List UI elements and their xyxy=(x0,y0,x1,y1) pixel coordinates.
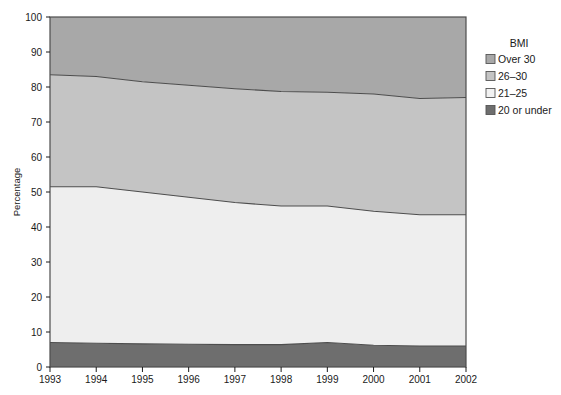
legend-items: Over 3026–3021–2520 or under xyxy=(486,53,552,116)
legend-swatch xyxy=(486,106,495,115)
figure-caption-cutoff xyxy=(18,386,318,393)
x-tick-label: 1995 xyxy=(131,374,154,385)
x-tick-label: 1998 xyxy=(270,374,293,385)
x-tick-label: 2000 xyxy=(362,374,385,385)
x-tick-label: 1997 xyxy=(224,374,247,385)
x-tick-label: 1999 xyxy=(316,374,339,385)
x-tick-label: 2002 xyxy=(455,374,478,385)
y-tick-label: 40 xyxy=(31,222,43,233)
legend-label: 26–30 xyxy=(498,70,527,82)
y-tick-label: 30 xyxy=(31,257,43,268)
bmi-stacked-area-chart: 0102030405060708090100 19931994199519961… xyxy=(0,0,561,395)
y-tick-label: 20 xyxy=(31,292,43,303)
y-tick-label: 80 xyxy=(31,82,43,93)
y-tick-label: 100 xyxy=(25,12,42,23)
legend-swatch xyxy=(486,89,495,98)
x-tick-label: 1993 xyxy=(39,374,62,385)
legend-title: BMI xyxy=(510,37,529,49)
x-tick-label: 2001 xyxy=(409,374,432,385)
legend-label: 20 or under xyxy=(498,104,552,116)
x-axis: 1993199419951996199719981999200020012002 xyxy=(39,367,478,385)
legend-label: 21–25 xyxy=(498,87,527,99)
stacked-area-bands xyxy=(50,17,466,367)
y-tick-label: 10 xyxy=(31,327,43,338)
legend: BMI Over 3026–3021–2520 or under xyxy=(486,37,552,116)
y-tick-label: 0 xyxy=(36,362,42,373)
y-tick-label: 50 xyxy=(31,187,43,198)
legend-swatch xyxy=(486,55,495,64)
legend-label: Over 30 xyxy=(498,53,536,65)
y-tick-label: 60 xyxy=(31,152,43,163)
y-tick-label: 70 xyxy=(31,117,43,128)
y-tick-label: 90 xyxy=(31,47,43,58)
x-tick-label: 1994 xyxy=(85,374,108,385)
x-tick-label: 1996 xyxy=(178,374,201,385)
y-axis: 0102030405060708090100 xyxy=(25,12,50,373)
y-axis-title: Percentage xyxy=(11,168,22,217)
legend-swatch xyxy=(486,72,495,81)
